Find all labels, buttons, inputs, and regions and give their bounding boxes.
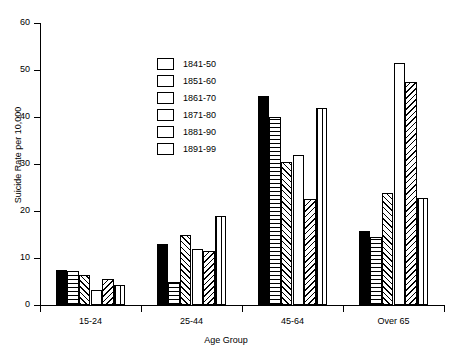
y-tick-label: 20 xyxy=(8,206,30,215)
legend-item-label: 1871-80 xyxy=(183,110,216,120)
bar xyxy=(269,117,281,305)
bar xyxy=(192,249,204,305)
x-tick-mark xyxy=(343,305,344,312)
bar xyxy=(359,231,371,305)
legend-swatch-icon xyxy=(157,58,174,70)
bar xyxy=(215,216,227,305)
legend-item-label: 1851-60 xyxy=(183,76,216,86)
bar xyxy=(180,235,192,306)
y-tick-label: 40 xyxy=(8,112,30,121)
bar xyxy=(79,275,91,305)
bar xyxy=(67,271,79,305)
legend-swatch-icon xyxy=(157,143,174,155)
legend-item: 1871-80 xyxy=(157,107,216,123)
bar xyxy=(258,96,270,305)
bar xyxy=(405,82,417,305)
legend-swatch-icon xyxy=(157,92,174,104)
bar xyxy=(304,199,316,305)
bar xyxy=(417,198,429,305)
bar xyxy=(382,193,394,305)
bar xyxy=(293,155,305,305)
x-axis-title: Age Group xyxy=(0,335,452,345)
plot-area xyxy=(40,23,444,305)
legend-swatch-icon xyxy=(157,75,174,87)
bar xyxy=(370,237,382,305)
bar-chart: Suicide Rate per 10,000 0102030405060 15… xyxy=(0,0,452,352)
y-tick-label: 50 xyxy=(8,65,30,74)
bar xyxy=(394,63,406,305)
y-tick-label: 60 xyxy=(8,18,30,27)
y-tick-label: 30 xyxy=(8,159,30,168)
bar xyxy=(316,108,328,305)
legend-item-label: 1891-99 xyxy=(183,144,216,154)
legend-item: 1851-60 xyxy=(157,73,216,89)
bar xyxy=(91,290,103,305)
bar xyxy=(157,244,169,305)
bar xyxy=(281,162,293,305)
y-axis-title: Suicide Rate per 10,000 xyxy=(13,85,23,225)
legend-item: 1891-99 xyxy=(157,141,216,157)
x-group-label: Over 65 xyxy=(343,316,444,326)
legend-item: 1881-90 xyxy=(157,124,216,140)
legend-swatch-icon xyxy=(157,126,174,138)
legend-item: 1861-70 xyxy=(157,90,216,106)
y-tick-label: 0 xyxy=(8,300,30,309)
legend-item-label: 1881-90 xyxy=(183,127,216,137)
x-tick-mark xyxy=(242,305,243,312)
bar xyxy=(203,251,215,305)
x-tick-mark xyxy=(141,305,142,312)
x-tick-mark xyxy=(40,305,41,312)
bar xyxy=(102,279,114,305)
bar xyxy=(56,270,68,305)
legend-item-label: 1841-50 xyxy=(183,59,216,69)
x-group-label: 25-44 xyxy=(141,316,242,326)
legend: 1841-501851-601861-701871-801881-901891-… xyxy=(157,56,216,158)
legend-swatch-icon xyxy=(157,109,174,121)
y-tick-label: 10 xyxy=(8,253,30,262)
bar xyxy=(114,285,126,305)
x-group-label: 15-24 xyxy=(40,316,141,326)
legend-item-label: 1861-70 xyxy=(183,93,216,103)
bar xyxy=(168,282,180,306)
legend-item: 1841-50 xyxy=(157,56,216,72)
x-tick-mark xyxy=(444,305,445,312)
x-group-label: 45-64 xyxy=(242,316,343,326)
